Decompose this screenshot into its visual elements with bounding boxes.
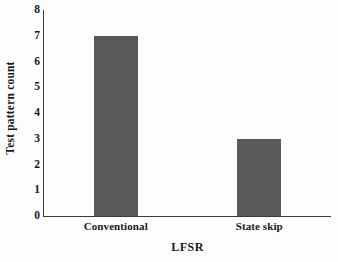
- y-axis-tick-label: 7: [22, 30, 40, 42]
- x-axis-title: LFSR: [44, 240, 331, 255]
- plot-area: [44, 10, 331, 216]
- y-axis-tick-label: 1: [22, 185, 40, 197]
- bar-chart-figure: Test pattern count 012345678 Conventiona…: [0, 0, 338, 262]
- y-axis-tick-label: 5: [22, 82, 40, 94]
- x-axis-category-label: State skip: [236, 220, 283, 232]
- y-axis-tick-label: 2: [22, 159, 40, 171]
- y-axis-tick-label: 4: [22, 107, 40, 119]
- x-axis-category-label: Conventional: [84, 220, 148, 232]
- x-axis-line: [43, 216, 331, 217]
- x-axis-category-labels: ConventionalState skip: [44, 220, 331, 236]
- y-axis-tick-label: 3: [22, 133, 40, 145]
- y-axis-tick-label: 8: [22, 4, 40, 16]
- bar: [94, 36, 138, 216]
- bar: [237, 139, 281, 216]
- y-axis-tick-label: 0: [22, 210, 40, 222]
- y-axis-tick-label: 6: [22, 56, 40, 68]
- y-axis-tick-labels: 012345678: [22, 10, 40, 216]
- y-axis-title: Test pattern count: [2, 0, 18, 216]
